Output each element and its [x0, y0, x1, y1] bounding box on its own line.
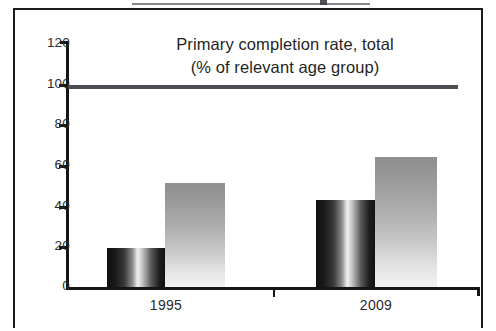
- bar-1995-dark: [107, 248, 165, 287]
- chart-title-line1: Primary completion rate, total: [176, 35, 394, 53]
- x-tick-group-divider: [273, 290, 275, 297]
- x-axis-label-2009: 2009: [316, 297, 436, 313]
- x-axis-label-1995: 1995: [106, 297, 226, 313]
- bar-2009-dark: [316, 200, 375, 287]
- chart-title-line2: (% of relevant age group): [120, 56, 450, 79]
- x-axis-end-tick: [477, 287, 480, 296]
- bar-2009-light: [375, 157, 437, 287]
- reference-line-100: [68, 85, 458, 89]
- chart-figure: 120 100 80 60 40 20 0: [0, 0, 496, 331]
- chart-title: Primary completion rate, total (% of rel…: [120, 33, 450, 80]
- plot-area: 120 100 80 60 40 20 0: [0, 0, 496, 331]
- bar-1995-light: [165, 183, 225, 287]
